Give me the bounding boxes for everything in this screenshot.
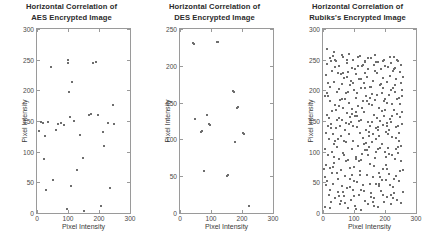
scatter-point [373, 64, 375, 66]
scatter-point [361, 153, 363, 155]
scatter-point [360, 209, 362, 211]
scatter-point [103, 145, 105, 147]
scatter-point [358, 194, 360, 196]
scatter-point [330, 60, 332, 62]
scatter-point [382, 77, 384, 79]
scatter-point [369, 183, 371, 185]
y-tick-mark [323, 152, 326, 153]
scatter-point [380, 190, 382, 192]
scatter-point [381, 110, 383, 112]
scatter-point [323, 168, 325, 170]
y-tick-label: 0 [30, 210, 34, 217]
scatter-point [401, 123, 403, 125]
scatter-point [363, 111, 365, 113]
scatter-point [38, 130, 40, 132]
scatter-point [332, 133, 334, 135]
scatter-point [329, 167, 331, 169]
scatter-point [345, 160, 347, 162]
x-tick-mark [211, 29, 212, 32]
x-tick-mark [99, 210, 100, 213]
scatter-point [100, 205, 102, 207]
scatter-point [334, 66, 336, 68]
scatter-point [351, 67, 353, 69]
y-tick-mark [37, 152, 40, 153]
scatter-point [233, 91, 235, 93]
scatter-point [324, 95, 326, 97]
scatter-point [402, 169, 404, 171]
scatter-point [353, 166, 355, 168]
scatter-point [366, 100, 368, 102]
scatter-point [387, 147, 389, 149]
scatter-point [353, 195, 355, 197]
scatter-point [380, 68, 382, 70]
scatter-point [326, 63, 328, 65]
scatter-point [97, 114, 99, 116]
x-tick-mark [385, 29, 386, 32]
scatter-point [369, 163, 371, 165]
x-tick-label: 0 [321, 215, 325, 222]
scatter-point [380, 83, 382, 85]
scatter-point [372, 176, 374, 178]
scatter-point [375, 151, 377, 153]
scatter-point [347, 71, 349, 73]
scatter-point [227, 174, 229, 176]
scatter-point [243, 133, 245, 135]
y-tick-label: 0 [316, 210, 320, 217]
scatter-point [329, 189, 331, 191]
x-tick-mark [242, 210, 243, 213]
scatter-point [83, 210, 85, 212]
scatter-point [346, 59, 348, 61]
scatter-point [382, 60, 384, 62]
scatter-point [394, 158, 396, 160]
scatter-point [366, 76, 368, 78]
scatter-point [340, 73, 342, 75]
scatter-point [337, 138, 339, 140]
scatter-point [333, 51, 335, 53]
scatter-point [391, 103, 393, 105]
scatter-point [349, 167, 351, 169]
scatter-point [369, 125, 371, 127]
scatter-point [388, 153, 390, 155]
scatter-point [402, 76, 404, 78]
scatter-point [388, 173, 390, 175]
panel-title-line2: DES Encrypted Image [143, 13, 286, 24]
scatter-point [82, 157, 84, 159]
scatter-point [328, 194, 330, 196]
scatter-point [76, 169, 78, 171]
scatter-point [335, 109, 337, 111]
y-tick-mark [413, 182, 416, 183]
scatter-point [342, 72, 344, 74]
panel-title-rubiks: Horizontal Correlation of Rubiks's Encry… [286, 2, 429, 23]
scatter-point [400, 160, 402, 162]
scatter-point [388, 129, 390, 131]
scatter-point [388, 94, 390, 96]
plot-area-des [180, 29, 273, 213]
scatter-point [398, 180, 400, 182]
scatter-point [328, 117, 330, 119]
y-tick-mark [270, 103, 273, 104]
y-tick-mark [270, 139, 273, 140]
scatter-point [390, 121, 392, 123]
scatter-point [359, 55, 361, 57]
scatter-point [333, 162, 335, 164]
scatter-point [362, 100, 364, 102]
y-tick-label: 100 [309, 148, 320, 155]
axes-rubiks: 050100150200250300 0100200300 Pixel Inte… [322, 28, 417, 214]
scatter-point [364, 61, 366, 63]
scatter-point [372, 201, 374, 203]
scatter-point [393, 178, 395, 180]
panel-des: Horizontal Correlation of DES Encrypted … [143, 0, 286, 250]
y-tick-mark [127, 152, 130, 153]
scatter-point [401, 95, 403, 97]
scatter-point [378, 107, 380, 109]
scatter-point [342, 191, 344, 193]
scatter-point [338, 88, 340, 90]
scatter-point [367, 121, 369, 123]
scatter-point [44, 135, 46, 137]
scatter-point [391, 115, 393, 117]
scatter-point [335, 127, 337, 129]
scatter-point [392, 87, 394, 89]
y-tick-label: 300 [309, 26, 320, 33]
scatter-point [397, 146, 399, 148]
y-tick-mark [127, 121, 130, 122]
